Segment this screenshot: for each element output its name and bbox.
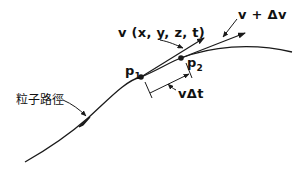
dimension-extension-p1 [145,82,152,98]
path-direction-arrow-icon [79,117,90,127]
p1-label: p1 [125,64,141,77]
velocity-label-pointer [160,40,183,48]
velocity-plus-label: v + Δv [238,8,287,21]
p2-label: p2 [187,56,203,69]
particle-path-label: 粒子路徑 [16,94,64,106]
p2-label-sub: 2 [197,63,204,73]
particle-path-curve [25,47,292,162]
displacement-label: vΔt [178,87,204,100]
displacement-label-pointer [168,84,176,90]
velocity-plus-label-pointer [223,19,237,37]
path-label-pointer [63,100,86,116]
p1-label-main: p [125,63,135,78]
velocity-label: v (x, y, z, t) [118,26,205,39]
point-p2 [178,55,184,61]
p2-label-main: p [187,55,197,70]
p1-label-sub: 1 [135,71,142,81]
